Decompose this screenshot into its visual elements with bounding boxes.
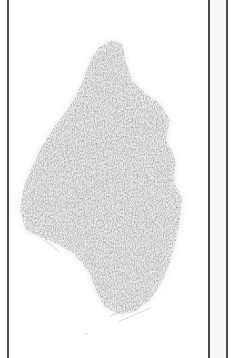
pencil-shading-blob — [0, 0, 232, 358]
shading-texture — [20, 40, 182, 314]
